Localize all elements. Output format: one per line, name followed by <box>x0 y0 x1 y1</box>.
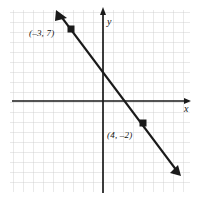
point-label-negative3-7: (–3, 7) <box>29 28 54 38</box>
coordinate-plane-figure: (–3, 7) (4, –2) y x <box>0 0 201 200</box>
data-point-marker <box>68 26 75 33</box>
y-axis-label: y <box>107 16 111 27</box>
x-axis-label: x <box>184 103 188 114</box>
point-label-4-negative2: (4, –2) <box>107 130 132 140</box>
data-point-marker <box>140 120 147 127</box>
